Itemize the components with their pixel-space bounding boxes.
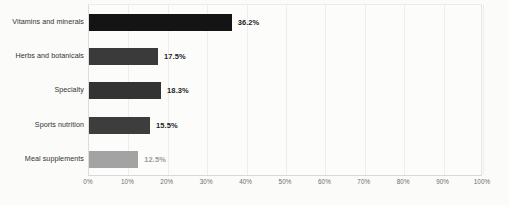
bar-value-label: 36.2%	[238, 18, 260, 27]
bar	[89, 14, 232, 31]
x-axis-tick-labels: 0%10%20%30%40%50%60%70%80%90%100%	[88, 178, 482, 192]
bar-series: 36.2%17.5%18.3%15.5%12.5%	[89, 5, 481, 175]
bar	[89, 82, 161, 99]
category-label: Sports nutrition	[35, 107, 84, 141]
x-tick-label: 40%	[239, 178, 252, 185]
bar-value-label: 17.5%	[164, 52, 186, 61]
bar-row: 18.3%	[89, 74, 481, 108]
bar-value-label: 15.5%	[156, 121, 178, 130]
x-tick-label: 100%	[474, 178, 491, 185]
x-tick-label: 80%	[397, 178, 410, 185]
x-tick-label: 0%	[83, 178, 92, 185]
bar-value-label: 18.3%	[167, 86, 189, 95]
bar-value-label: 12.5%	[144, 155, 166, 164]
category-axis-labels: Vitamins and mineralsHerbs and botanical…	[0, 4, 84, 176]
x-tick-label: 90%	[436, 178, 449, 185]
x-tick-label: 10%	[121, 178, 134, 185]
x-tick-label: 60%	[318, 178, 331, 185]
x-tick-label: 30%	[200, 178, 213, 185]
bar	[89, 117, 150, 134]
bar	[89, 151, 138, 168]
horizontal-bar-chart: Vitamins and mineralsHerbs and botanical…	[0, 0, 509, 205]
x-tick-label: 70%	[357, 178, 370, 185]
category-label: Herbs and botanicals	[15, 38, 84, 72]
plot-area: 36.2%17.5%18.3%15.5%12.5%	[88, 4, 482, 176]
category-label: Vitamins and minerals	[12, 4, 84, 38]
gridline-100%	[483, 5, 484, 175]
bar-row: 12.5%	[89, 143, 481, 177]
bar-row: 17.5%	[89, 39, 481, 73]
bar-row: 15.5%	[89, 108, 481, 142]
bar	[89, 48, 158, 65]
x-tick-label: 50%	[279, 178, 292, 185]
category-label: Meal supplements	[25, 142, 84, 176]
category-label: Specialty	[54, 73, 84, 107]
x-tick-label: 20%	[160, 178, 173, 185]
bar-row: 36.2%	[89, 5, 481, 39]
